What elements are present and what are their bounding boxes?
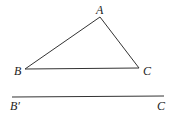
geometry-diagram: A B C B′ C	[0, 0, 172, 118]
vertex-label-b: B	[14, 64, 22, 78]
triangle-abc	[25, 17, 139, 69]
segment-label-b-prime: B′	[10, 99, 20, 113]
segment-label-c: C	[157, 99, 166, 113]
vertex-label-c: C	[143, 64, 152, 78]
vertex-label-a: A	[95, 3, 104, 17]
segment-b-prime-c	[12, 96, 164, 97]
